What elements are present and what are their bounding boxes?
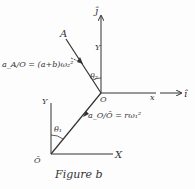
figure-caption: Figure b bbox=[54, 168, 103, 181]
accel-A-label: a_A/O = (a+b)ω₂² bbox=[2, 60, 73, 69]
diagram-canvas: ĵ Y θ₂ A a_A/O = (a+b)ω₂² O x î a_O/Ō = … bbox=[0, 0, 195, 189]
upper-Y-label: Y bbox=[95, 43, 101, 52]
lower-origin-label: Ō bbox=[34, 156, 41, 165]
upper-origin-label: O bbox=[100, 95, 107, 104]
unit-i-label: î bbox=[184, 88, 188, 99]
theta2-label: θ₂ bbox=[90, 72, 98, 81]
upper-x-label: x bbox=[150, 93, 155, 102]
figure-b-diagram: ĵ Y θ₂ A a_A/O = (a+b)ω₂² O x î a_O/Ō = … bbox=[0, 0, 195, 189]
point-A-label: A bbox=[59, 28, 67, 39]
lower-X-label: X bbox=[114, 149, 123, 160]
theta1-label: θ₁ bbox=[54, 125, 62, 134]
link-O-Obar bbox=[51, 93, 101, 154]
theta1-arc bbox=[51, 135, 63, 139]
lower-Y-label: Y bbox=[42, 97, 48, 106]
accel-O-label: a_O/Ō = rω₁² bbox=[88, 111, 141, 120]
unit-j-label: ĵ bbox=[93, 5, 99, 16]
